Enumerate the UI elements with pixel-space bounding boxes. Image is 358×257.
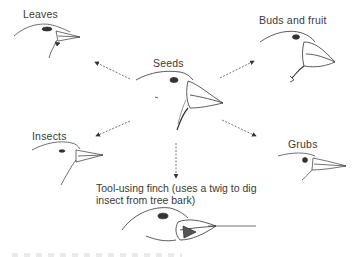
arrow-to-insects <box>96 121 130 136</box>
arrow-to-grubs <box>222 120 256 136</box>
leaves-finch-sketch <box>14 24 80 58</box>
tool-using-finch-sketch <box>122 208 256 241</box>
tool-using-label-line2: insect from tree bark) <box>96 194 257 206</box>
buds-fruit-finch-sketch <box>260 31 335 82</box>
buds-fruit-label: Buds and fruit <box>259 14 327 26</box>
grubs-label: Grubs <box>288 138 318 150</box>
seeds-finch-sketch <box>136 71 223 130</box>
insects-finch-sketch <box>32 142 103 185</box>
arrow-to-leaves <box>95 62 130 79</box>
tool-using-label-line1: Tool-using finch (uses a twig to dig <box>96 182 257 194</box>
insects-label: Insects <box>32 130 67 142</box>
finch-diagram-drawing <box>0 0 358 257</box>
clipped-figure-caption <box>12 253 182 257</box>
arrow-to-buds <box>220 61 254 78</box>
leaves-label: Leaves <box>23 8 58 20</box>
tool-using-label: Tool-using finch (uses a twig to dig ins… <box>96 182 257 206</box>
grubs-finch-sketch <box>278 153 346 180</box>
seeds-label: Seeds <box>153 57 184 69</box>
